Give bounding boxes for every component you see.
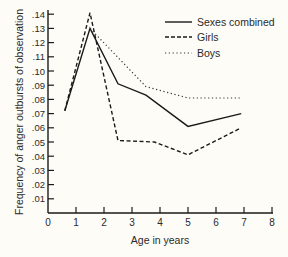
legend-item-boys: Boys: [165, 47, 220, 59]
x-tick-label: 3: [129, 217, 135, 228]
series-sexes-combined: [65, 28, 241, 126]
y-tick-label: .12: [32, 37, 45, 48]
y-tick-label: .05: [32, 137, 45, 148]
y-tick-label: .10: [32, 66, 45, 77]
x-tick-label: 7: [241, 217, 247, 228]
x-tick-label: 5: [185, 217, 191, 228]
y-tick-label: .02: [32, 179, 45, 190]
x-tick-label: 2: [101, 217, 107, 228]
x-tick-label: 0: [45, 217, 51, 228]
y-ticks: .01.02.03.04.05.06.07.08.09.10.11.12.13.…: [32, 9, 54, 205]
x-axis-label: Age in years: [131, 234, 189, 246]
legend-label: Sexes combined: [197, 16, 275, 28]
y-tick-label: .06: [32, 122, 45, 133]
y-tick-label: .01: [32, 193, 45, 204]
y-tick-label: .11: [32, 51, 45, 62]
y-tick-label: .07: [32, 108, 45, 119]
y-axis-label: Frequency of anger outbursts of observat…: [13, 9, 25, 215]
x-tick-label: 4: [157, 217, 163, 228]
y-tick-label: .09: [32, 80, 45, 91]
x-tick-label: 6: [213, 217, 219, 228]
x-tick-label: 1: [73, 217, 79, 228]
legend-label: Girls: [197, 31, 219, 43]
y-tick-label: .03: [32, 165, 45, 176]
y-tick-label: .13: [32, 23, 45, 34]
legend-item-girls: Girls: [165, 31, 219, 43]
x-ticks: 012345678: [45, 207, 275, 228]
y-tick-label: .14: [32, 9, 45, 20]
y-tick-label: .08: [32, 94, 45, 105]
legend-item-sexes-combined: Sexes combined: [165, 16, 275, 28]
x-tick-label: 8: [269, 217, 275, 228]
legend: Sexes combined Girls Boys: [165, 16, 275, 59]
legend-label: Boys: [197, 47, 220, 59]
anger-outbursts-chart: Frequency of anger outbursts of observat…: [0, 0, 288, 257]
y-tick-label: .04: [32, 151, 45, 162]
